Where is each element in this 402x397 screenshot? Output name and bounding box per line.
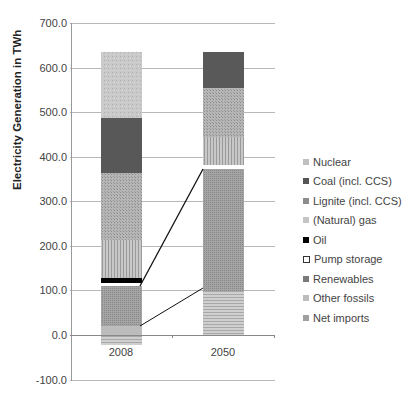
legend-label: Coal (incl. CCS) bbox=[313, 175, 392, 187]
bar-2008 bbox=[101, 52, 142, 345]
legend: Nuclear Coal (incl. CCS) Lignite (incl. … bbox=[303, 152, 398, 328]
legend-item-lignite: Lignite (incl. CCS) bbox=[303, 191, 398, 211]
segment-2008-gas bbox=[101, 240, 142, 278]
x-label-2050: 2050 bbox=[211, 346, 235, 358]
y-tick-label: 100.0 bbox=[39, 284, 67, 296]
y-tick-label: 500.0 bbox=[39, 106, 67, 118]
legend-item-net-imports: Net imports bbox=[303, 308, 398, 328]
legend-swatch-icon bbox=[303, 276, 309, 282]
y-axis-title: Electricity Generation in TWh bbox=[11, 30, 23, 190]
legend-label: Nuclear bbox=[313, 156, 351, 168]
legend-label: Renewables bbox=[313, 273, 374, 285]
legend-item-renewables: Renewables bbox=[303, 269, 398, 289]
legend-item-nuclear: Nuclear bbox=[303, 152, 398, 172]
segment-2050-coal bbox=[203, 52, 244, 88]
legend-swatch-icon bbox=[303, 315, 309, 321]
legend-swatch-icon bbox=[303, 159, 309, 165]
legend-label: (Natural) gas bbox=[313, 214, 377, 226]
segment-2050-pump-storage bbox=[203, 165, 244, 169]
segment-2050-other-fossils bbox=[203, 137, 244, 165]
segment-2008-net-imports bbox=[101, 335, 142, 345]
y-tick-label: 0.0 bbox=[52, 329, 67, 341]
x-label-2008: 2008 bbox=[109, 346, 133, 358]
segment-2050-net-imports bbox=[203, 291, 244, 335]
y-tick-label: 400.0 bbox=[39, 151, 67, 163]
legend-label: Oil bbox=[313, 234, 326, 246]
bar-2050 bbox=[203, 52, 244, 335]
legend-swatch-icon bbox=[303, 217, 309, 223]
y-tick-label: -100.0 bbox=[36, 374, 67, 386]
segment-2008-pump-storage bbox=[101, 283, 142, 286]
gridlines bbox=[70, 24, 275, 381]
segment-2008-nuclear bbox=[101, 52, 142, 118]
legend-item-other-fossils: Other fossils bbox=[303, 289, 398, 309]
legend-swatch-icon bbox=[303, 178, 309, 184]
segment-2008-renewables bbox=[101, 286, 142, 326]
legend-label: Pump storage bbox=[314, 253, 382, 265]
legend-label: Net imports bbox=[313, 312, 369, 324]
y-tick-label: 700.0 bbox=[39, 17, 67, 29]
legend-swatch-icon bbox=[303, 256, 310, 263]
legend-item-oil: Oil bbox=[303, 230, 398, 250]
legend-swatch-icon bbox=[303, 237, 309, 243]
segment-2050-gas bbox=[203, 88, 244, 137]
legend-item-pump-storage: Pump storage bbox=[303, 250, 398, 270]
segment-2050-renewables bbox=[203, 169, 244, 291]
legend-item-gas: (Natural) gas bbox=[303, 211, 398, 231]
connector-line-upper bbox=[140, 169, 203, 286]
legend-swatch-icon bbox=[303, 295, 309, 301]
legend-item-coal: Coal (incl. CCS) bbox=[303, 172, 398, 192]
segment-2008-oil bbox=[101, 278, 142, 283]
legend-label: Other fossils bbox=[313, 292, 374, 304]
y-tick-label: 300.0 bbox=[39, 195, 67, 207]
legend-label: Lignite (incl. CCS) bbox=[313, 195, 402, 207]
legend-swatch-icon bbox=[303, 198, 309, 204]
segment-2008-lignite bbox=[101, 173, 142, 240]
connector-line-lower bbox=[140, 288, 203, 326]
x-tick-labels: 2008 2050 bbox=[109, 346, 235, 358]
y-tick-label: 200.0 bbox=[39, 240, 67, 252]
y-tick-labels: 700.0 600.0 500.0 400.0 300.0 200.0 100.… bbox=[36, 17, 67, 386]
segment-2008-coal bbox=[101, 118, 142, 173]
y-tick-label: 600.0 bbox=[39, 62, 67, 74]
segment-2008-other-fossils bbox=[101, 326, 142, 335]
